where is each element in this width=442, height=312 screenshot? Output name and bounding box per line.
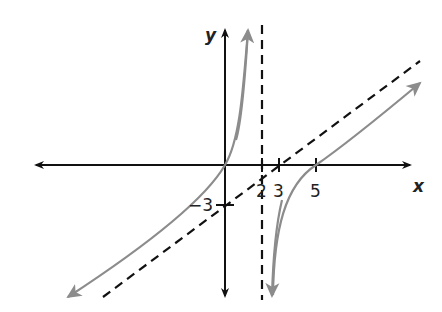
tick-label-2: 2 <box>256 183 267 200</box>
tick-label-3: 3 <box>273 183 284 200</box>
tick-label-5: 5 <box>310 183 321 200</box>
oblique-asymptote <box>103 61 420 297</box>
x-axis-label: x <box>413 178 424 195</box>
tick-label-neg3: −3 <box>188 197 213 214</box>
rational-function-graph <box>0 0 442 312</box>
y-axis-label: y <box>205 27 216 44</box>
